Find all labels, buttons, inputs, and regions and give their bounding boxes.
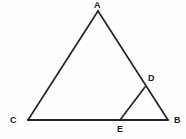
vertex-label-d: D: [148, 74, 155, 83]
vertex-label-a: A: [94, 1, 101, 10]
vertex-label-e: E: [117, 125, 123, 134]
vertex-label-c: C: [10, 116, 17, 125]
segments-group: [28, 11, 168, 120]
segment-ED: [120, 87, 145, 120]
vertex-label-b: B: [174, 116, 181, 125]
segment-CA: [28, 11, 98, 120]
geometry-figure: A B C D E: [0, 0, 186, 139]
triangle-diagram-svg: [0, 0, 186, 139]
